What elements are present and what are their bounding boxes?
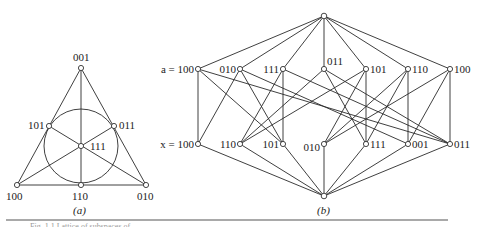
- lattice-top-row-node: [321, 66, 326, 71]
- fano-point: [143, 182, 148, 187]
- fano-point: [78, 143, 83, 148]
- lattice-edge-top: [198, 16, 324, 69]
- lattice-incidence-edge: [198, 69, 240, 144]
- lattice-incidence-edge: [408, 69, 450, 144]
- lattice-edge-bottom: [324, 144, 408, 196]
- lattice-incidence-edge: [240, 69, 324, 144]
- fano-point-label: 101: [28, 119, 45, 131]
- fano-point-label: 110: [72, 190, 89, 202]
- fano-line: [17, 126, 114, 185]
- lattice-top-row-label: a = 100: [161, 63, 195, 75]
- fano-line: [49, 126, 146, 185]
- lattice-edge-bottom: [324, 144, 450, 196]
- lattice-bottom-row-node: [405, 141, 410, 146]
- lattice-bottom-row-label: 101: [263, 138, 280, 150]
- lattice-edge-bottom: [324, 144, 366, 196]
- lattice-bottom-row-label: 001: [412, 138, 429, 150]
- fano-point-label: 100: [6, 190, 23, 202]
- lattice-top-node: [321, 13, 327, 19]
- fano-plane-diagram: 001101011111100110010(a): [6, 51, 154, 217]
- lattice-top-row-node: [447, 66, 452, 71]
- fano-point-label: 111: [90, 140, 106, 152]
- lattice-top-row-label: 110: [412, 63, 429, 75]
- lattice-top-row-node: [363, 66, 368, 71]
- lattice-edge-top: [283, 16, 324, 69]
- caption-a: (a): [73, 204, 86, 217]
- lattice-top-row-node: [405, 66, 410, 71]
- lattice-edge-top: [240, 16, 324, 69]
- lattice-incidence-edge: [240, 69, 408, 144]
- lattice-bottom-row-node: [363, 141, 368, 146]
- fano-point: [14, 182, 19, 187]
- lattice-top-row-node: [195, 66, 200, 71]
- lattice-diagram: a = 100010111011101110100x = 10011010101…: [160, 13, 471, 217]
- lattice-bottom-row-label: 111: [370, 138, 386, 150]
- fano-point: [78, 182, 83, 187]
- lattice-top-row-label: 011: [327, 55, 343, 67]
- lattice-top-row-label: 111: [263, 63, 279, 75]
- lattice-bottom-row-node: [195, 141, 200, 146]
- lattice-top-row-node: [237, 66, 242, 71]
- lattice-bottom-row-label: x = 100: [160, 138, 194, 150]
- caption-b: (b): [317, 204, 330, 217]
- lattice-top-row-node: [280, 66, 285, 71]
- fano-point-label: 011: [119, 119, 135, 131]
- lattice-bottom-row-node: [237, 141, 242, 146]
- lattice-bottom-row-label: 011: [454, 138, 470, 150]
- fano-point-label: 001: [73, 51, 90, 63]
- lattice-top-row-label: 010: [220, 63, 237, 75]
- figure-canvas: 001101011111100110010(a)a = 100010111011…: [0, 0, 477, 227]
- fano-point-label: 010: [137, 190, 154, 202]
- fano-point: [78, 65, 83, 70]
- fano-point: [46, 123, 51, 128]
- lattice-bottom-row-node: [447, 141, 452, 146]
- fano-point: [111, 123, 116, 128]
- lattice-bottom-row-node: [280, 141, 285, 146]
- lattice-bottom-row-label: 010: [304, 141, 321, 153]
- lattice-bottom-row-label: 110: [220, 138, 237, 150]
- lattice-top-row-label: 101: [370, 63, 387, 75]
- lattice-bottom-row-node: [321, 141, 326, 146]
- figure-footer-text: Fig. 1.1 Lattice of subspaces of ...: [30, 222, 138, 227]
- lattice-bottom-node: [321, 193, 327, 199]
- lattice-incidence-edge: [240, 69, 366, 144]
- lattice-incidence-edge: [198, 69, 283, 144]
- lattice-top-row-label: 100: [454, 63, 471, 75]
